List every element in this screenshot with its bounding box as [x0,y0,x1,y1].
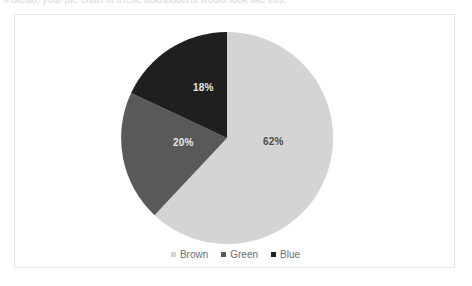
pie-label-brown: 62% [263,136,284,147]
pie-chart: 62% 20% 18% [121,32,333,244]
legend-swatch-blue [271,252,276,257]
chart-frame: 62% 20% 18% Brown Green Blue [14,14,455,268]
chart-legend: Brown Green Blue [15,249,456,260]
legend-swatch-brown [171,252,176,257]
pie-svg [121,32,333,244]
caption-strip: Instead, your pie chart of these distrib… [0,0,472,9]
legend-label-brown: Brown [180,249,208,260]
legend-item-green[interactable]: Green [221,249,258,260]
legend-label-green: Green [230,249,258,260]
plot-area: 62% 20% 18% Brown Green Blue [15,15,456,269]
caption-text: Instead, your pie chart of these distrib… [4,0,286,6]
legend-item-brown[interactable]: Brown [171,249,208,260]
pie-label-blue: 18% [193,82,214,93]
legend-label-blue: Blue [280,249,300,260]
legend-item-blue[interactable]: Blue [271,249,300,260]
pie-label-green: 20% [173,137,194,148]
legend-swatch-green [221,252,226,257]
